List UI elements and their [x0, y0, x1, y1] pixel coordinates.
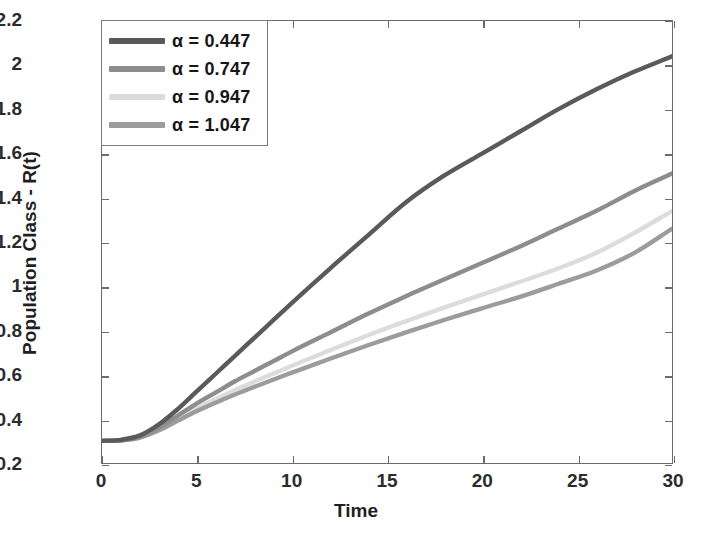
legend-item[interactable]: α = 0.747: [109, 56, 261, 82]
x-axis-tick: [197, 456, 198, 463]
y-axis-tick: [665, 332, 672, 333]
y-axis-tick: [665, 287, 672, 288]
y-axis-tick: [665, 465, 672, 466]
y-axis-tick: [102, 199, 109, 200]
y-axis-tick: [665, 21, 672, 22]
y-axis-tick: [665, 243, 672, 244]
x-axis-tick: [579, 456, 580, 463]
legend-item-label: α = 0.747: [172, 59, 250, 80]
x-axis-tick: [483, 21, 484, 28]
y-axis-tick: [665, 199, 672, 200]
figure-canvas: 0.20.40.60.811.21.41.61.822.205101520253…: [0, 0, 712, 542]
legend-item-label: α = 0.447: [172, 31, 250, 52]
legend-item[interactable]: α = 0.447: [109, 28, 261, 54]
x-axis-tick: [102, 456, 103, 463]
y-axis-tick-label: 2.2: [0, 9, 22, 31]
y-axis-tick: [665, 65, 672, 66]
legend-item-label: α = 1.047: [172, 115, 250, 136]
legend-color-swatch: [109, 38, 165, 44]
y-axis-tick: [665, 421, 672, 422]
x-axis-tick: [388, 456, 389, 463]
legend-item[interactable]: α = 0.947: [109, 84, 261, 110]
x-axis-tick-label: 25: [567, 470, 588, 492]
legend-color-swatch: [109, 94, 165, 100]
x-axis-tick-label: 5: [191, 470, 202, 492]
x-axis-tick: [674, 21, 675, 28]
x-axis-tick-label: 20: [472, 470, 493, 492]
x-axis-tick: [293, 21, 294, 28]
x-axis-tick: [674, 456, 675, 463]
data-series-line: [102, 211, 672, 441]
legend-item[interactable]: α = 1.047: [109, 112, 261, 138]
y-axis-tick: [102, 287, 109, 288]
legend-color-swatch: [109, 66, 165, 72]
x-axis-tick-label: 15: [376, 470, 397, 492]
y-axis-tick: [665, 376, 672, 377]
x-axis-tick-label: 30: [662, 470, 683, 492]
y-axis-tick: [102, 376, 109, 377]
legend-color-swatch: [109, 122, 165, 128]
y-axis-tick: [102, 332, 109, 333]
y-axis-label: Population Class - R(t): [19, 38, 41, 468]
legend-item-label: α = 0.947: [172, 87, 250, 108]
legend-box: α = 0.447 α = 0.747 α = 0.947 α = 1.047: [101, 20, 268, 146]
y-axis-tick: [102, 154, 109, 155]
x-axis-tick-label: 10: [281, 470, 302, 492]
x-axis-tick: [388, 21, 389, 28]
y-axis-tick: [102, 243, 109, 244]
y-axis-tick: [665, 154, 672, 155]
x-axis-tick-label: 0: [96, 470, 107, 492]
x-axis-tick: [579, 21, 580, 28]
x-axis-tick: [293, 456, 294, 463]
x-axis-label: Time: [0, 500, 712, 522]
y-axis-tick: [102, 421, 109, 422]
y-axis-tick: [102, 465, 109, 466]
y-axis-tick: [665, 110, 672, 111]
x-axis-tick: [483, 456, 484, 463]
